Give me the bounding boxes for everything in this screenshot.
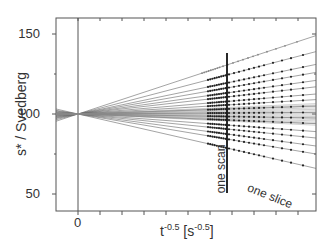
y-tick-label-50: 50 — [10, 186, 40, 201]
x-axis-label-unit: [s — [179, 223, 194, 239]
y-axis-label: s* / Svedberg — [13, 64, 29, 164]
x-tick-label-0: 0 — [74, 215, 81, 230]
x-axis-label-unit-close: ] — [210, 223, 214, 239]
x-axis-label: t-0.5 [s-0.5] — [160, 222, 214, 239]
y-tick-label-150: 150 — [10, 26, 40, 41]
x-axis-label-unit-exp: -0.5 — [194, 222, 210, 232]
x-axis-label-exp: -0.5 — [164, 222, 180, 232]
chart-plot — [0, 0, 333, 249]
annotation-one-scan: one scan — [214, 145, 228, 194]
